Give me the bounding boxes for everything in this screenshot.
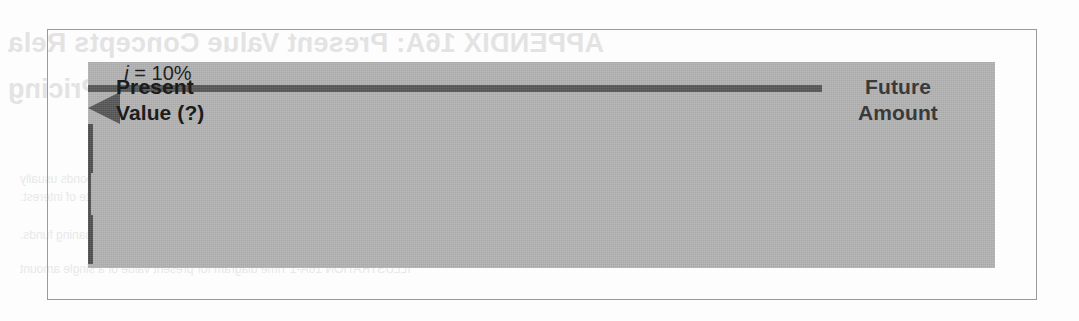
tick-mark-period-1: [88, 173, 91, 215]
period-label-0: 0: [88, 264, 208, 268]
scanned-page: APPENDIX 16A: Present Value Concepts Rel…: [0, 0, 1079, 321]
timeline-diagram-panel: Present Value (?) Future Amount i = 10% …: [88, 62, 995, 268]
present-value-heading-line2: Value (?): [116, 100, 204, 126]
future-amount-heading: Future Amount: [828, 74, 968, 125]
future-amount-heading-line2: Amount: [828, 100, 968, 126]
present-value-heading: Present Value (?): [116, 74, 204, 125]
future-amount-heading-line1: Future: [828, 74, 968, 100]
tick-mark-period-2: [88, 215, 93, 264]
present-value-heading-line1: Present: [116, 74, 204, 100]
tick-mark-period-0: [88, 124, 93, 173]
